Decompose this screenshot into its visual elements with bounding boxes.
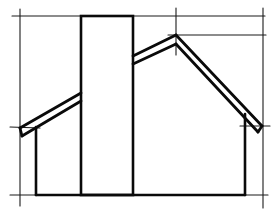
chimney [81,16,133,195]
left-eave-tip [20,128,22,136]
right-eave-tip [258,126,262,132]
left-roof-inner [22,101,81,136]
right-roof-lower-right [176,44,258,132]
construction-guides [10,8,270,208]
house-sketch-canvas [0,0,278,216]
house-walls [36,114,245,195]
left-roof-outer [20,93,81,128]
roof-lines [20,35,262,136]
right-roof-upper-right [176,35,262,126]
